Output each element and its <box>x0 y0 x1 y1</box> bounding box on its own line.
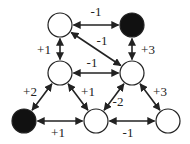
edge-weight-label: -1 <box>123 125 134 140</box>
signed-graph-diagram: -1-1+1+3-1+2+1-2+3+1-1 <box>0 0 190 144</box>
empty-node <box>48 61 72 85</box>
edge-weight-label: +1 <box>51 125 65 140</box>
edge-weight-label: -1 <box>91 4 102 19</box>
empty-node <box>48 13 72 37</box>
edge-weight-label: +3 <box>153 84 167 99</box>
empty-node <box>84 109 108 133</box>
edge-weight-label: -1 <box>87 55 98 70</box>
edge-weight-label: +1 <box>37 42 51 57</box>
edge-weight-label: -2 <box>113 94 124 109</box>
edge-weight-label: +2 <box>23 84 37 99</box>
filled-node <box>12 109 36 133</box>
filled-node <box>120 13 144 37</box>
empty-node <box>120 61 144 85</box>
edge-weight-label: +3 <box>141 42 155 57</box>
edge-weight-label: +1 <box>81 84 95 99</box>
edge-weight-label: -1 <box>97 33 108 48</box>
empty-node <box>156 109 180 133</box>
